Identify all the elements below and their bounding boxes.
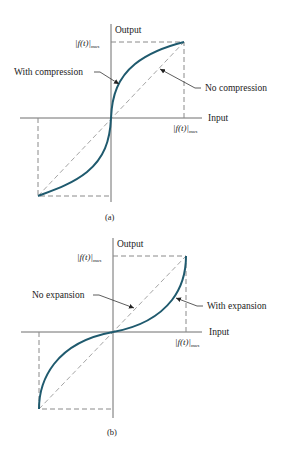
a-output-label: Output	[115, 25, 142, 35]
a-compression-label: With compression	[14, 67, 83, 77]
b-expansion-label: With expansion	[207, 301, 267, 311]
a-xmax-label: |f(t)|max	[173, 123, 198, 134]
b-expansion-leader	[176, 298, 203, 306]
compression-expansion-diagram: Output Input |f(t)|max |f(t)|max With co…	[0, 0, 289, 456]
a-caption: (a)	[105, 212, 115, 222]
b-output-label: Output	[117, 239, 144, 249]
a-no-compression-leader	[160, 69, 201, 88]
b-caption: (b)	[107, 427, 117, 437]
b-no-expansion-label: No expansion	[32, 290, 85, 300]
b-input-label: Input	[209, 327, 229, 337]
a-ymax-label: |f(t)|max	[75, 38, 100, 49]
figure-b: Output Input |f(t)|max |f(t)|max No expa…	[21, 238, 267, 437]
b-xmax-label: |f(t)|max	[175, 337, 200, 348]
b-ymax-label: |f(t)|max	[77, 252, 102, 263]
a-input-label: Input	[208, 113, 228, 123]
a-no-compression-label: No compression	[205, 83, 267, 93]
figure-a: Output Input |f(t)|max |f(t)|max With co…	[14, 24, 267, 222]
a-compression-leader	[94, 72, 119, 84]
